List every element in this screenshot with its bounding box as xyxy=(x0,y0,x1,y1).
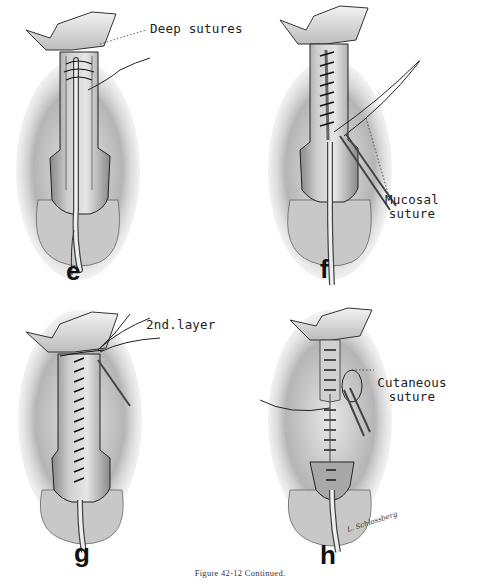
panel-g: 2nd.layer g xyxy=(0,290,240,560)
annotation-mucosal-line2: suture xyxy=(382,207,442,221)
annotation-mucosal-line1: Mucosal xyxy=(382,193,442,207)
annotation-cutaneous-line2: suture xyxy=(372,390,452,404)
annotation-mucosal-suture: Mucosal suture xyxy=(382,193,442,221)
figure-caption: Figure 42-12 Continued. xyxy=(0,568,480,578)
illustration-cutaneous-suture xyxy=(240,290,480,560)
illustration-mucosal-suture xyxy=(240,0,480,290)
panel-label-g: g xyxy=(74,540,90,566)
annotation-cutaneous-line1: Cutaneous xyxy=(372,376,452,390)
annotation-cutaneous-suture: Cutaneous suture xyxy=(372,376,452,404)
panel-label-f: f xyxy=(320,256,329,282)
panel-label-e: e xyxy=(66,258,80,284)
annotation-second-layer: 2nd.layer xyxy=(146,318,216,332)
annotation-deep-sutures: Deep sutures xyxy=(150,22,243,36)
panel-e: Deep sutures e xyxy=(0,0,240,290)
panel-label-h: h xyxy=(320,542,336,568)
panel-f: Mucosal suture f xyxy=(240,0,480,290)
panel-h: Cutaneous suture L. Schlossberg h xyxy=(240,290,480,560)
illustration-deep-sutures xyxy=(0,0,240,290)
